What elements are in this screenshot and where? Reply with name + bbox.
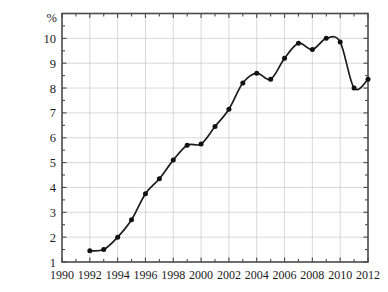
data-point-marker xyxy=(213,124,218,129)
x-axis-tick-label: 1992 xyxy=(78,268,102,282)
y-axis-tick-label: 3 xyxy=(50,206,56,220)
data-point-marker xyxy=(171,158,176,163)
data-point-marker xyxy=(268,77,273,82)
x-axis-tick-label: 1994 xyxy=(106,268,130,282)
x-axis-tick-label: 2010 xyxy=(328,268,352,282)
data-point-marker xyxy=(199,141,204,146)
y-axis-tick-label: 7 xyxy=(50,106,56,120)
y-axis-tick-label: 9 xyxy=(50,57,56,71)
y-axis-tick-label: 10 xyxy=(44,32,57,46)
y-axis-tick-label: 6 xyxy=(50,131,56,145)
x-axis-tick-label: 1996 xyxy=(133,268,157,282)
data-point-marker xyxy=(310,47,315,52)
y-axis-tick-label: 2 xyxy=(50,231,56,245)
chart-container: 12345678910 1990199219941996199820002002… xyxy=(0,0,388,292)
data-point-marker xyxy=(143,191,148,196)
x-axis-tick-label: 1990 xyxy=(50,268,74,282)
data-point-marker xyxy=(282,56,287,61)
data-point-marker xyxy=(129,217,134,222)
data-point-marker xyxy=(366,77,371,82)
x-axis-tick-label: 2002 xyxy=(217,268,241,282)
y-axis-tick-label: 8 xyxy=(50,82,56,96)
chart-background xyxy=(0,0,388,292)
data-point-marker xyxy=(254,71,259,76)
x-axis-tick-label: 2000 xyxy=(189,268,213,282)
data-point-marker xyxy=(352,86,357,91)
data-point-marker xyxy=(338,40,343,45)
data-point-marker xyxy=(185,143,190,148)
data-point-marker xyxy=(296,41,301,46)
data-point-marker xyxy=(324,36,329,41)
x-axis-tick-label: 2006 xyxy=(273,268,297,282)
data-point-marker xyxy=(157,176,162,181)
x-axis-tick-label: 2008 xyxy=(300,268,324,282)
y-axis-tick-label: 5 xyxy=(50,156,56,170)
data-point-marker xyxy=(87,248,92,253)
data-point-marker xyxy=(240,81,245,86)
data-point-marker xyxy=(115,235,120,240)
y-axis-tick-label: 4 xyxy=(50,181,57,195)
x-axis-tick-label: 2012 xyxy=(356,268,380,282)
data-point-marker xyxy=(101,247,106,252)
data-point-marker xyxy=(226,107,231,112)
x-axis-tick-label: 2004 xyxy=(245,268,269,282)
line-chart-svg: 12345678910 1990199219941996199820002002… xyxy=(0,0,388,292)
y-axis-unit-label: % xyxy=(47,11,57,25)
x-axis-tick-label: 1998 xyxy=(161,268,185,282)
